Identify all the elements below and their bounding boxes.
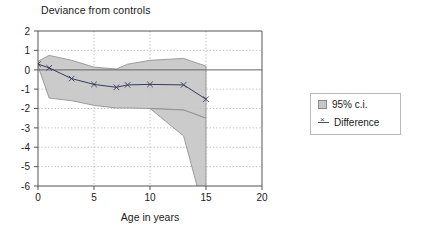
y-tick-label: -1 [21,84,30,95]
y-tick-label: -3 [21,123,30,134]
x-axis-ticks [38,186,262,190]
x-tick-label: 5 [91,192,97,203]
x-tick-label: 15 [200,192,212,203]
y-tick-label: -6 [21,181,30,192]
y-tick-labels: 2 1 0 -1 -2 -3 -4 -5 -6 [21,26,30,192]
y-tick-label: -5 [21,161,30,172]
legend-item-ci: 95% c.i. [318,99,368,110]
y-axis-ticks [34,31,38,186]
line-with-x-marker-icon [318,118,329,127]
x-tick-label: 10 [144,192,156,203]
y-tick-label: -2 [21,103,30,114]
y-tick-label: -4 [21,142,30,153]
y-tick-label: 2 [24,26,30,37]
chart-container: Deviance from controls [0,0,425,229]
y-tick-label: 1 [24,45,30,56]
legend-label: Difference [334,117,379,128]
filled-square-swatch-icon [318,100,327,109]
legend-label: 95% c.i. [332,99,368,110]
chart-legend: 95% c.i. Difference [310,93,401,135]
legend-item-difference: Difference [318,117,379,128]
y-tick-label: 0 [24,65,30,76]
x-tick-label: 0 [35,192,41,203]
x-tick-labels: 0 5 10 15 20 [35,192,268,203]
x-axis-title: Age in years [121,211,179,223]
x-tick-label: 20 [256,192,268,203]
